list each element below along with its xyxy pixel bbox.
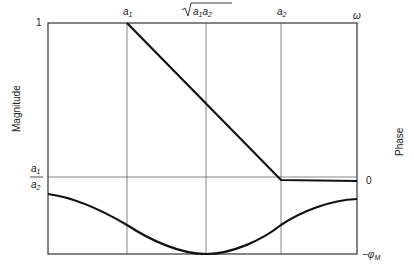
svg-text:a1a2: a1a2 [193, 6, 212, 18]
svg-text:a2: a2 [31, 179, 41, 191]
x-axis-omega: ω [353, 10, 361, 21]
x-tick-a1: a1 [123, 6, 133, 18]
y-axis-magnitude-label: Magnitude [11, 85, 22, 132]
bode-lead-chart: a1 a1a2 a2 ω 1 a1 a2 Magnitude 0 −φM Pha… [0, 0, 414, 271]
phase-curve [48, 194, 357, 254]
y-tick-one: 1 [36, 17, 42, 28]
magnitude-curve [127, 23, 357, 181]
y-tick-zero: 0 [366, 175, 372, 186]
y-tick-phim: −φM [362, 249, 380, 261]
x-tick-sqrt-a1a2: a1a2 [182, 3, 232, 18]
y-tick-ratio: a1 a2 [30, 163, 43, 191]
y-axis-phase-label: Phase [394, 127, 405, 156]
x-tick-a2: a2 [277, 6, 287, 18]
plot-frame [48, 23, 357, 254]
svg-text:a1: a1 [31, 163, 41, 175]
